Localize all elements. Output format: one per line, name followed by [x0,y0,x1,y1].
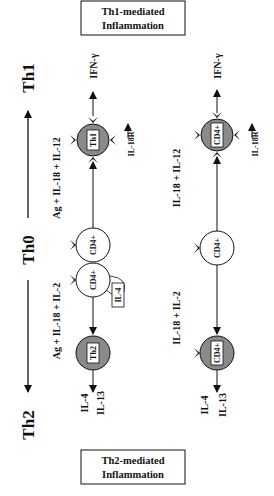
th1-stimulus-label: IL-18 + IL-12 [171,149,182,207]
il4-output: IL-4 [79,394,90,413]
th2-box-line2: Inflammation [102,469,164,480]
receptor-icon [194,243,200,253]
receptor-icon [234,130,240,140]
receptor-icon [70,275,76,285]
ifn-gamma-output: IFN-γ [212,53,223,79]
th1-stimulus-label: Ag + IL-18 + IL-12 [51,137,62,218]
th1-box-line2: Inflammation [102,20,164,31]
th1-label: Th1 [19,63,38,92]
cd4-cell-label: CD4+ [213,125,222,146]
th2-cell-label: Th2 [89,346,98,360]
row-antigen-independent: IL-18 + IL-2 IL-18 + IL-12 CD4+ CD4+ CD4… [171,53,260,417]
il13-output: IL-13 [217,393,228,417]
cd4-cell-label: CD4+ [213,343,222,364]
il18r-label: IL-18R [251,131,260,156]
receptor-icon [70,240,76,250]
th1-cell-label: Th1 [89,133,98,147]
th2-inflammation-box: Th2-mediated Inflammation [81,450,185,484]
receptor-icon [194,130,200,140]
ifn-gamma-output: IFN-γ [88,53,99,79]
il4-feedback-label: IL-4 [114,287,123,302]
th1-box-line1: Th1-mediated [102,6,165,17]
th2-label: Th2 [19,410,38,439]
cd4-cell-label: CD4+ [213,238,222,259]
receptor-icon [88,117,98,123]
il18r-label: IL-18R [127,131,136,156]
il13-output: IL-13 [95,391,106,415]
th2-box-line1: Th2-mediated [102,455,165,466]
th0-label: Th0 [19,235,38,264]
th2-stimulus-label: IL-18 + IL-2 [171,291,182,344]
cd4-cell-label: CD4+ [89,235,98,256]
row-antigen-driven: Ag + IL-18 + IL-2 Ag + IL-18 + IL-12 Th2… [51,53,136,415]
il4-output: IL-4 [199,396,210,415]
th1-th2-differentiation-diagram: Th2 Th0 Th1 Ag + IL-18 + IL-2 Ag + IL-18… [0,0,274,496]
th2-stimulus-label: Ag + IL-18 + IL-2 [51,283,62,359]
cd4-cell-label: CD4+ [89,270,98,291]
receptor-icon [70,135,76,145]
receptor-icon [194,348,200,358]
receptor-icon [110,135,116,145]
th1-inflammation-box: Th1-mediated Inflammation [81,1,185,35]
differentiation-axis: Th2 Th0 Th1 [19,63,38,439]
